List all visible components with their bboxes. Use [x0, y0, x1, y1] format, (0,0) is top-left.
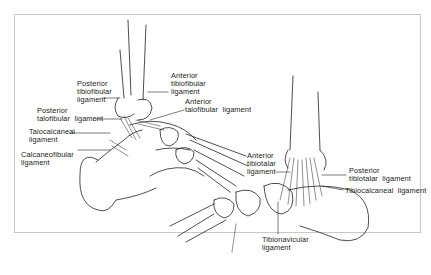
label-calcaneofibular: Calcaneofibular ligament [21, 151, 74, 167]
label-anterior-talofibular: Anterior talofibular ligament [185, 98, 251, 114]
label-posterior-tibiofibular: Posterior tibiofibular ligament [77, 80, 112, 105]
label-tibionavicular: Tibionavicular ligament [262, 236, 309, 252]
label-talocalcaneal: Talocalcaneal ligament [29, 128, 75, 144]
label-anterior-tibiotalar: Anterior tibiotalar ligament [247, 152, 276, 177]
label-posterior-tibiotalar: Posterior tibiotalar ligament [349, 167, 411, 183]
label-posterior-talofibular: Posterior talofibular ligament [37, 107, 103, 123]
label-anterior-tibiofibular: Anterior tibiofibular ligament [171, 72, 206, 97]
lateral-ankle-drawing [80, 20, 248, 211]
label-tibiocalcaneal: Tibiocalcaneal ligament [345, 187, 426, 195]
